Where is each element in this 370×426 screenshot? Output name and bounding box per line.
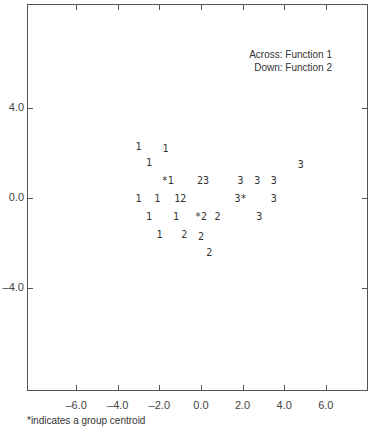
case-marker: 1 — [154, 193, 160, 204]
case-marker: 3 — [256, 211, 262, 222]
case-marker: 2 — [206, 247, 212, 258]
case-marker: 1 — [136, 193, 142, 204]
legend-across: Across: Function 1 — [249, 48, 332, 61]
x-tick-bottom — [76, 385, 77, 391]
y-tick-left — [27, 108, 33, 109]
case-marker: 2 — [181, 229, 187, 240]
case-marker: 12 — [174, 193, 186, 204]
x-tick-bottom — [284, 385, 285, 391]
legend: Across: Function 1 Down: Function 2 — [249, 48, 332, 74]
x-tick-label: 4.0 — [264, 399, 304, 411]
case-marker: 1 — [146, 211, 152, 222]
case-marker: 23 — [197, 174, 209, 185]
case-marker: 1 — [136, 141, 142, 152]
y-tick-label: 0.0 — [0, 191, 24, 203]
case-marker: 2 — [198, 231, 204, 242]
footnote: *indicates a group centroid — [27, 415, 145, 426]
x-tick-top — [326, 4, 327, 10]
x-tick-top — [243, 4, 244, 10]
case-marker: 3 — [254, 174, 260, 185]
case-marker: 1 — [156, 229, 162, 240]
group-centroid-marker: 3* — [234, 193, 246, 204]
case-marker: 3 — [271, 174, 277, 185]
case-marker: 1 — [173, 211, 179, 222]
legend-down: Down: Function 2 — [249, 61, 332, 74]
x-tick-top — [159, 4, 160, 10]
group-centroid-marker: *1 — [162, 174, 174, 185]
x-tick-bottom — [326, 385, 327, 391]
x-tick-label: 6.0 — [306, 399, 346, 411]
x-tick-top — [118, 4, 119, 10]
x-tick-label: –6.0 — [56, 399, 96, 411]
x-tick-label: –2.0 — [139, 399, 179, 411]
x-tick-bottom — [159, 385, 160, 391]
x-tick-label: 2.0 — [223, 399, 263, 411]
case-marker: 3 — [238, 174, 244, 185]
y-tick-right — [362, 198, 368, 199]
group-centroid-marker: *2 — [195, 211, 207, 222]
case-marker: 1 — [163, 143, 169, 154]
y-tick-label: –4.0 — [0, 281, 24, 293]
x-tick-bottom — [201, 385, 202, 391]
y-tick-right — [362, 288, 368, 289]
y-tick-right — [362, 108, 368, 109]
case-marker: 2 — [215, 211, 221, 222]
case-marker: 3 — [298, 159, 304, 170]
x-tick-top — [284, 4, 285, 10]
y-tick-left — [27, 198, 33, 199]
y-tick-left — [27, 288, 33, 289]
y-tick-label: 4.0 — [0, 101, 24, 113]
x-tick-top — [201, 4, 202, 10]
x-tick-label: –4.0 — [98, 399, 138, 411]
x-tick-bottom — [118, 385, 119, 391]
case-marker: 3 — [271, 193, 277, 204]
case-marker: 1 — [146, 156, 152, 167]
x-tick-top — [76, 4, 77, 10]
x-tick-bottom — [243, 385, 244, 391]
x-tick-label: 0.0 — [181, 399, 221, 411]
